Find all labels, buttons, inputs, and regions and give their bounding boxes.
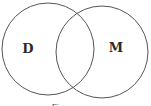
figure-caption: Fig.	[52, 102, 66, 106]
set-circle-m	[56, 6, 148, 98]
venn-diagram: D M Fig.	[0, 0, 151, 106]
set-label-d: D	[22, 41, 33, 56]
set-label-m: M	[109, 40, 123, 55]
set-circle-d	[2, 3, 94, 95]
